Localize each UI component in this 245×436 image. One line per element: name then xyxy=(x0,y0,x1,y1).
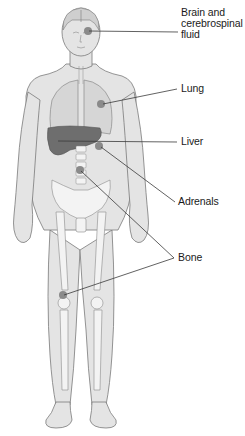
site-adrenal xyxy=(95,142,103,150)
spine xyxy=(76,146,86,184)
leader-brain xyxy=(89,31,178,32)
anatomy-figure xyxy=(0,0,245,436)
label-brain: Brain and cerebrospinal fluid xyxy=(181,7,243,40)
leg-bones xyxy=(56,212,106,390)
label-liver: Liver xyxy=(181,136,203,147)
label-lung: Lung xyxy=(181,83,204,94)
site-femur xyxy=(59,291,67,299)
label-adrenals: Adrenals xyxy=(178,196,219,207)
label-bone: Bone xyxy=(178,252,202,263)
